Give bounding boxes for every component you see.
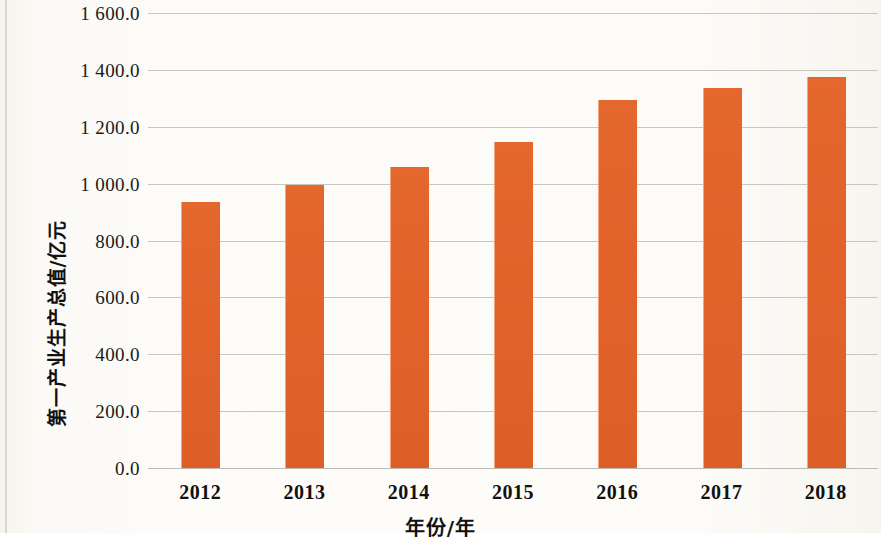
bar-2015 — [494, 142, 533, 468]
gridline — [148, 13, 878, 14]
gridline — [148, 127, 878, 128]
bar-2016 — [598, 100, 637, 468]
x-axis-tick-label: 2018 — [786, 482, 866, 502]
x-axis-tick-label: 2016 — [577, 482, 657, 502]
x-axis-tick-label: 2013 — [264, 482, 344, 502]
bar-2018 — [807, 77, 846, 468]
y-axis-tick-label: 1 200.0 — [10, 118, 140, 137]
y-axis-tick-labels: 1 600.01 400.01 200.01 000.0800.0600.040… — [0, 13, 140, 468]
y-axis-tick-label: 200.0 — [10, 402, 140, 421]
y-axis-tick-label: 1 400.0 — [10, 61, 140, 80]
bar-2013 — [285, 185, 324, 468]
x-axis-tick-label: 2014 — [369, 482, 449, 502]
y-axis-title-container: 第一产业生产总值/亿元 — [30, 150, 70, 380]
bar-2017 — [703, 88, 742, 468]
y-axis-tick-label: 1 600.0 — [10, 4, 140, 23]
axis-baseline — [148, 468, 878, 469]
bar-2012 — [181, 202, 220, 468]
y-axis-tick-label: 0.0 — [10, 459, 140, 478]
x-axis-tick-label: 2012 — [160, 482, 240, 502]
bar-2014 — [390, 167, 429, 468]
x-axis-title: 年份/年 — [0, 512, 881, 541]
plot-area — [148, 13, 878, 468]
y-axis-title: 第一产业生产总值/亿元 — [42, 209, 69, 439]
gridline — [148, 70, 878, 71]
x-axis-tick-label: 2017 — [682, 482, 762, 502]
x-axis-tick-label: 2015 — [473, 482, 553, 502]
